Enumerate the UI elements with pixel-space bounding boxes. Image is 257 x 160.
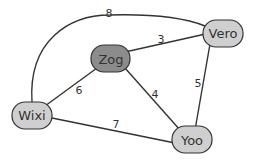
node-yoo: Yoo	[172, 126, 212, 153]
weight-label: 7	[113, 118, 120, 131]
node-zog: Zog	[91, 45, 130, 72]
weight-label: 3	[158, 33, 165, 46]
edge-zog-vero	[125, 33, 210, 52]
weight-label: 5	[195, 77, 202, 90]
svg-text:Wixi: Wixi	[18, 108, 46, 123]
weight-label: 6	[76, 84, 83, 97]
node-wixi: Wixi	[12, 102, 52, 129]
edge-zog-wixi	[45, 68, 97, 106]
weight-label: 8	[106, 7, 113, 20]
svg-text:Yoo: Yoo	[180, 133, 203, 148]
graph-diagram: 8 3 6 4 5 7 Zog Vero Wixi Yoo	[0, 0, 257, 160]
svg-text:Zog: Zog	[98, 52, 123, 67]
svg-text:Vero: Vero	[209, 26, 238, 41]
weight-label: 4	[152, 88, 159, 101]
node-vero: Vero	[203, 20, 243, 47]
